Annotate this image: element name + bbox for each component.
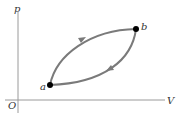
point-b-label: b	[141, 21, 147, 32]
point-b	[133, 26, 139, 32]
origin-label: O	[8, 100, 16, 111]
y-axis-label: p	[14, 3, 21, 14]
x-axis-label: V	[167, 95, 176, 106]
point-a	[47, 82, 53, 88]
point-a-label: a	[40, 81, 46, 92]
pv-diagram: p V O a b	[0, 0, 181, 121]
